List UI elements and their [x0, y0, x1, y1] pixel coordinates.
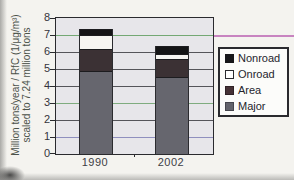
figure: Million tons/year / RfC (1/μg/m³) scaled…	[0, 0, 294, 180]
legend-label-onroad: Onroad	[238, 68, 275, 80]
y-tick-label-3: 3	[28, 96, 50, 108]
bar-segment-2002-major	[156, 77, 188, 154]
y-tick-0	[50, 153, 55, 154]
bar-segment-1990-onroad	[80, 35, 112, 49]
x-tick-middle	[134, 154, 135, 157]
bar-1990	[79, 29, 113, 154]
y-tick-3	[50, 103, 55, 104]
y-tick-5	[50, 69, 55, 70]
legend-item-area: Area	[225, 82, 287, 98]
y-tick-4	[50, 86, 55, 87]
legend-swatch-onroad	[225, 70, 234, 79]
legend-item-major: Major	[225, 98, 287, 114]
y-tick-label-5: 5	[28, 62, 50, 74]
bar-segment-1990-major	[80, 71, 112, 154]
scan-edge-bottom	[0, 173, 294, 180]
y-tick-label-8: 8	[28, 11, 50, 23]
y-tick-8	[50, 18, 55, 19]
legend-swatch-nonroad	[225, 54, 234, 63]
plot-area	[55, 17, 214, 155]
legend-item-onroad: Onroad	[225, 66, 287, 82]
legend-label-area: Area	[238, 84, 261, 96]
bar-2002	[155, 46, 189, 154]
bar-segment-2002-area	[156, 59, 188, 77]
bar-segment-1990-area	[80, 49, 112, 71]
x-axis-label-2002: 2002	[149, 156, 193, 168]
y-tick-label-2: 2	[28, 113, 50, 125]
scan-edge-left	[0, 0, 7, 180]
legend-label-major: Major	[238, 100, 266, 112]
y-tick-1	[50, 137, 55, 138]
y-tick-label-7: 7	[28, 28, 50, 40]
scan-corner-smudge	[0, 166, 25, 180]
legend-swatch-major	[225, 102, 234, 111]
y-tick-label-4: 4	[28, 79, 50, 91]
y-axis-title-line1: Million tons/year / RfC (1/μg/m³)	[10, 6, 21, 164]
y-tick-2	[50, 120, 55, 121]
legend: NonroadOnroadAreaMajor	[218, 47, 289, 117]
y-tick-label-6: 6	[28, 45, 50, 57]
y-tick-label-0: 0	[28, 147, 50, 159]
scan-line-artifact	[213, 35, 294, 37]
y-tick-7	[50, 35, 55, 36]
legend-label-nonroad: Nonroad	[238, 52, 280, 64]
legend-item-nonroad: Nonroad	[225, 50, 287, 66]
legend-swatch-area	[225, 86, 234, 95]
bar-segment-2002-nonroad	[156, 46, 188, 54]
x-axis-label-1990: 1990	[73, 156, 117, 168]
y-tick-6	[50, 52, 55, 53]
y-tick-label-1: 1	[28, 130, 50, 142]
